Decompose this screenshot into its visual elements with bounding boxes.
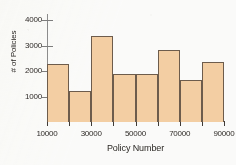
- x-axis-title: Policy Number: [47, 143, 224, 153]
- x-tick-label: 50000: [125, 129, 146, 138]
- x-tick-label: 70000: [169, 129, 190, 138]
- x-tick-label: 90000: [213, 129, 234, 138]
- y-tick-label: 2000: [25, 66, 42, 75]
- y-tick-label: 1000: [25, 92, 42, 101]
- histogram-bar: [113, 74, 135, 122]
- histogram-bar: [47, 64, 69, 122]
- x-tick-label: 30000: [81, 129, 102, 138]
- plot-area: 1000200030004000 10000300005000070000900…: [47, 14, 224, 122]
- y-tick-label: 3000: [25, 41, 42, 50]
- histogram-bar: [180, 80, 202, 122]
- y-tick-label: 4000: [25, 16, 42, 25]
- x-tick-label: 10000: [36, 129, 57, 138]
- bar-series: [47, 14, 224, 122]
- y-axis-title: # of Policies: [9, 17, 18, 87]
- histogram-bar: [136, 74, 158, 122]
- histogram-chart: 1000200030004000 10000300005000070000900…: [0, 0, 236, 165]
- histogram-bar: [91, 36, 113, 122]
- histogram-bar: [69, 91, 91, 122]
- x-tick: [224, 121, 225, 126]
- histogram-bar: [158, 50, 180, 122]
- histogram-bar: [202, 62, 224, 122]
